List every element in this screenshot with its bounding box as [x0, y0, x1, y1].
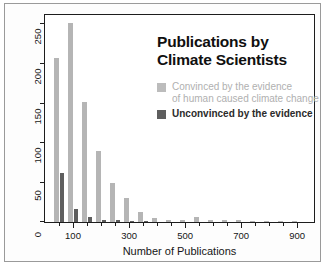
y-axis-tick — [40, 23, 45, 24]
y-axis-tick-label: 250 — [32, 26, 43, 48]
bar — [194, 217, 199, 222]
x-axis-minor-tick — [171, 222, 172, 226]
chart-legend: Convinced by the evidence of human cause… — [157, 81, 326, 124]
y-axis-tick — [40, 103, 45, 104]
bar — [166, 220, 171, 222]
bar — [278, 221, 283, 222]
x-axis-minor-tick — [143, 222, 144, 226]
bar — [144, 221, 149, 222]
bar — [74, 209, 79, 222]
legend-swatch-unconvinced-icon — [157, 110, 166, 119]
bar — [138, 212, 143, 222]
x-axis-minor-tick — [227, 222, 228, 226]
x-axis-tick-label: 700 — [233, 230, 249, 241]
bar — [88, 217, 93, 222]
y-axis-tick — [40, 63, 45, 64]
bar — [236, 220, 241, 222]
bar — [116, 220, 121, 222]
legend-item-unconvinced: Unconvinced by the evidence — [157, 108, 326, 120]
legend-label-convinced: Convinced by the evidence of human cause… — [172, 81, 319, 104]
legend-label-unconvinced: Unconvinced by the evidence — [172, 108, 313, 120]
bar — [110, 183, 115, 222]
y-axis-tick — [40, 182, 45, 183]
x-axis-minor-tick — [115, 222, 116, 226]
chart-title: Publications by Climate Scientists — [157, 33, 326, 69]
x-axis-minor-tick — [213, 222, 214, 226]
x-axis-minor-tick — [101, 222, 102, 226]
bar — [222, 220, 227, 222]
x-axis-tick — [185, 222, 186, 228]
x-axis-tick-label: 100 — [65, 230, 81, 241]
x-axis-minor-tick — [87, 222, 88, 226]
bar — [208, 220, 213, 222]
bar — [152, 218, 157, 222]
bar — [54, 58, 59, 222]
y-axis-tick-label: 0 — [32, 224, 43, 246]
bar — [102, 220, 107, 222]
y-axis-tick-label: 50 — [32, 184, 43, 206]
x-axis-minor-tick — [157, 222, 158, 226]
x-axis-tick — [241, 222, 242, 228]
legend-swatch-convinced-icon — [157, 83, 166, 92]
y-axis-tick — [40, 221, 45, 222]
bar — [292, 221, 297, 222]
y-axis-title-wrapper: Number of Researchers — [11, 0, 27, 15]
y-axis-tick-label: 100 — [32, 145, 43, 167]
x-axis-minor-tick — [199, 222, 200, 226]
chart-title-line-1: Publications by — [157, 33, 326, 51]
legend-label-convinced-line2: of human caused climate change — [172, 93, 319, 105]
bar — [250, 221, 255, 222]
bar — [82, 102, 87, 222]
x-axis-minor-tick — [255, 222, 256, 226]
bar — [124, 198, 129, 222]
plot-frame: Publications by Climate Scientists Convi… — [44, 14, 315, 223]
bar — [68, 23, 73, 222]
bar — [264, 221, 269, 222]
chart-title-line-2: Climate Scientists — [157, 51, 326, 69]
y-axis-title: Number of Researchers — [11, 0, 27, 15]
x-axis-minor-tick — [59, 222, 60, 226]
x-axis-tick-label: 900 — [289, 230, 305, 241]
bar — [96, 151, 101, 222]
bar — [180, 220, 185, 222]
y-axis-tick-label: 150 — [32, 105, 43, 127]
x-axis-tick-label: 300 — [121, 230, 137, 241]
x-axis-tick — [129, 222, 130, 228]
x-axis-minor-tick — [269, 222, 270, 226]
y-axis-tick-label: 200 — [32, 66, 43, 88]
legend-label-convinced-line1: Convinced by the evidence — [172, 81, 292, 92]
y-axis-tick — [40, 142, 45, 143]
x-axis-tick — [297, 222, 298, 228]
figure-container: Publications by Climate Scientists Convi… — [0, 0, 326, 273]
bar — [130, 221, 135, 222]
bar — [60, 173, 65, 222]
x-axis-title: Number of Publications — [44, 245, 315, 257]
legend-item-convinced: Convinced by the evidence of human cause… — [157, 81, 326, 104]
x-axis-minor-tick — [283, 222, 284, 226]
x-axis-tick — [73, 222, 74, 228]
x-axis-tick-label: 500 — [177, 230, 193, 241]
